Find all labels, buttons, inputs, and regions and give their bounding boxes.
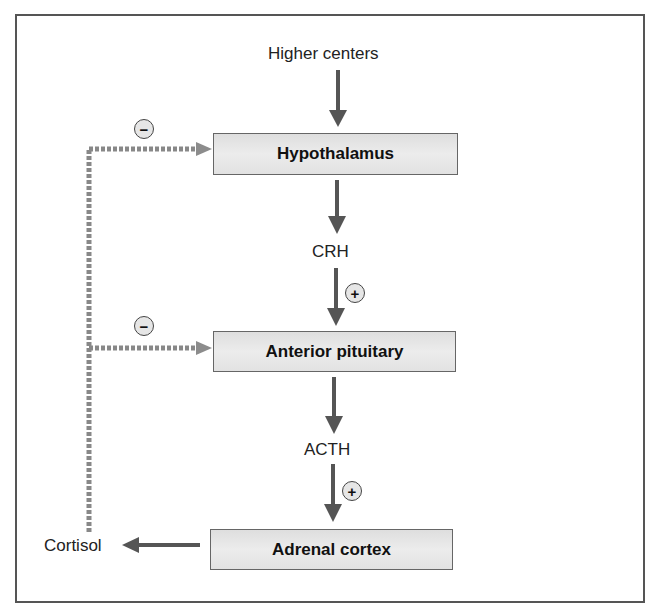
arrow-adrenal-cortex-to-cortisol: [122, 537, 200, 553]
arrow-acth-to-adrenal-cortex: [324, 464, 342, 522]
positive-sign-icon: +: [345, 283, 365, 303]
feedback-arrowhead-pituitary: [196, 341, 212, 355]
cortisol-label: Cortisol: [44, 536, 102, 556]
arrow-higher-centers-to-hypothalamus: [329, 70, 347, 127]
node-anterior-pituitary: Anterior pituitary: [213, 331, 456, 372]
arrow-hypothalamus-to-crh: [328, 180, 346, 234]
node-adrenal-cortex: Adrenal cortex: [210, 529, 453, 570]
node-label: Hypothalamus: [277, 144, 394, 164]
arrows-layer: [0, 0, 658, 615]
feedback-lines: [89, 149, 198, 532]
negative-sign-icon: −: [134, 119, 154, 139]
arrow-crh-to-anterior-pituitary: [327, 268, 345, 326]
negative-sign-icon: −: [134, 316, 154, 336]
arrow-anterior-pituitary-to-acth: [325, 377, 343, 434]
acth-label: ACTH: [304, 440, 350, 460]
positive-sign-icon: +: [342, 481, 362, 501]
crh-label: CRH: [312, 242, 349, 262]
higher-centers-label: Higher centers: [268, 44, 379, 64]
node-hypothalamus: Hypothalamus: [213, 133, 458, 175]
node-label: Adrenal cortex: [272, 540, 391, 560]
feedback-arrowhead-hypothalamus: [196, 142, 212, 156]
node-label: Anterior pituitary: [266, 342, 404, 362]
